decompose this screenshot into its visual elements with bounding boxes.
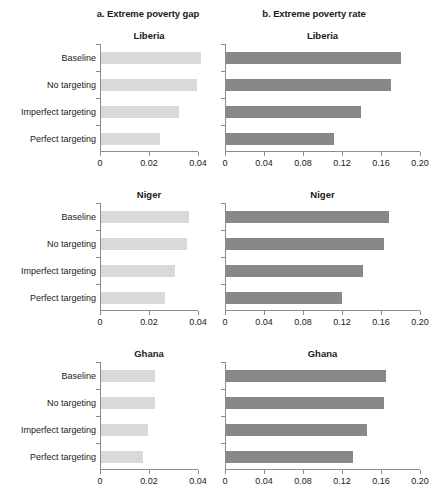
bar xyxy=(101,370,155,382)
y-axis-tick xyxy=(96,71,100,72)
plot-ghana-gap: BaselineNo targetingImperfect targetingP… xyxy=(100,362,198,470)
x-axis-tick-label: 0.20 xyxy=(411,158,429,168)
x-axis-tick xyxy=(198,311,199,315)
x-axis-line xyxy=(225,469,420,470)
x-axis-tick-label: 0 xyxy=(97,158,102,168)
x-axis-tick-label: 0.08 xyxy=(294,158,312,168)
panel-subtitle-liberia-gap: Liberia xyxy=(100,30,198,41)
bar xyxy=(226,451,353,463)
x-axis-tick-label: 0.04 xyxy=(255,317,273,327)
y-axis-tick xyxy=(96,362,100,363)
y-axis-tick xyxy=(221,98,225,99)
bar xyxy=(101,52,201,64)
plot-ghana-rate: 00.040.080.120.160.20 xyxy=(225,362,420,470)
x-axis-tick-label: 0.16 xyxy=(372,476,390,486)
plot-niger-gap: BaselineNo targetingImperfect targetingP… xyxy=(100,203,198,311)
category-label: No targeting xyxy=(4,80,96,90)
y-axis-tick xyxy=(96,416,100,417)
x-axis-tick-label: 0.02 xyxy=(140,476,158,486)
category-label: Baseline xyxy=(4,212,96,222)
x-axis-line xyxy=(225,151,420,152)
y-axis-tick xyxy=(221,362,225,363)
panel-subtitle-liberia-rate: Liberia xyxy=(225,30,420,41)
bar xyxy=(101,106,179,118)
x-axis-tick-label: 0.02 xyxy=(140,317,158,327)
x-axis-tick xyxy=(420,470,421,474)
category-label: Imperfect targeting xyxy=(4,425,96,435)
x-axis-tick xyxy=(149,311,150,315)
x-axis-tick-label: 0.16 xyxy=(372,158,390,168)
bar xyxy=(226,211,389,223)
bar xyxy=(226,238,384,250)
x-axis-line xyxy=(225,310,420,311)
x-axis-tick xyxy=(100,470,101,474)
x-axis-tick-label: 0 xyxy=(222,158,227,168)
x-axis-tick xyxy=(149,152,150,156)
x-axis-tick xyxy=(420,152,421,156)
category-label: Perfect targeting xyxy=(4,134,96,144)
panel-subtitle-ghana-rate: Ghana xyxy=(225,348,420,359)
x-axis-tick-label: 0.04 xyxy=(255,476,273,486)
x-axis-tick-label: 0.20 xyxy=(411,476,429,486)
x-axis-tick xyxy=(198,470,199,474)
x-axis-tick-label: 0.12 xyxy=(333,158,351,168)
bar xyxy=(101,133,160,145)
x-axis-tick xyxy=(342,470,343,474)
panel-b-title: b. Extreme poverty rate xyxy=(250,8,378,19)
y-axis-tick xyxy=(96,98,100,99)
x-axis-tick xyxy=(198,152,199,156)
bar xyxy=(226,106,361,118)
bar xyxy=(101,292,165,304)
y-axis-tick xyxy=(221,71,225,72)
x-axis-tick xyxy=(381,470,382,474)
x-axis-tick-label: 0.12 xyxy=(333,476,351,486)
x-axis-tick-label: 0 xyxy=(97,317,102,327)
y-axis-tick xyxy=(96,443,100,444)
x-axis-tick-label: 0 xyxy=(222,476,227,486)
y-axis-tick xyxy=(221,443,225,444)
bar xyxy=(101,265,175,277)
plot-niger-rate: 00.040.080.120.160.20 xyxy=(225,203,420,311)
x-axis-tick xyxy=(303,470,304,474)
x-axis-tick-label: 0.04 xyxy=(255,158,273,168)
x-axis-tick xyxy=(225,152,226,156)
x-axis-tick xyxy=(303,152,304,156)
x-axis-tick-label: 0 xyxy=(222,317,227,327)
x-axis-tick-label: 0.12 xyxy=(333,317,351,327)
bar xyxy=(101,397,155,409)
x-axis-tick-label: 0 xyxy=(97,476,102,486)
x-axis-tick-label: 0.04 xyxy=(189,476,207,486)
plot-liberia-gap: BaselineNo targetingImperfect targetingP… xyxy=(100,44,198,152)
plot-liberia-rate: 00.040.080.120.160.20 xyxy=(225,44,420,152)
bar xyxy=(226,424,367,436)
bar xyxy=(101,211,189,223)
bar xyxy=(226,397,384,409)
y-axis-tick xyxy=(221,389,225,390)
y-axis-tick xyxy=(96,389,100,390)
bar xyxy=(226,265,363,277)
figure-container: a. Extreme poverty gap b. Extreme povert… xyxy=(0,0,442,494)
bar xyxy=(101,79,197,91)
panel-subtitle-niger-gap: Niger xyxy=(100,189,198,200)
y-axis-tick xyxy=(221,44,225,45)
x-axis-tick-label: 0.04 xyxy=(189,158,207,168)
x-axis-tick xyxy=(225,470,226,474)
y-axis-tick xyxy=(221,230,225,231)
panel-a-title: a. Extreme poverty gap xyxy=(88,8,208,19)
category-label: Baseline xyxy=(4,53,96,63)
bar xyxy=(101,424,148,436)
category-label: Imperfect targeting xyxy=(4,107,96,117)
x-axis-tick-label: 0.16 xyxy=(372,317,390,327)
x-axis-tick xyxy=(149,470,150,474)
category-label: Imperfect targeting xyxy=(4,266,96,276)
bar xyxy=(226,79,391,91)
x-axis-tick-label: 0.08 xyxy=(294,476,312,486)
bar xyxy=(101,238,187,250)
bar xyxy=(226,52,401,64)
y-axis-tick xyxy=(221,416,225,417)
category-label: Perfect targeting xyxy=(4,293,96,303)
x-axis-tick xyxy=(225,311,226,315)
y-axis-tick xyxy=(221,284,225,285)
x-axis-tick-label: 0.02 xyxy=(140,158,158,168)
x-axis-tick xyxy=(264,152,265,156)
